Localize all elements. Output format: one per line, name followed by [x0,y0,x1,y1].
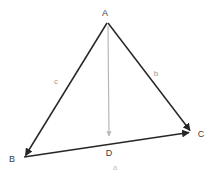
vertex-label-c: C [198,129,205,139]
side-label-a: a [113,163,118,172]
geometry-figure: A B C D c b a [0,0,218,178]
edge-ac-side-b [108,23,190,131]
triangle-diagram-canvas: A B C D c b a [0,0,218,178]
vertex-label-b: B [9,154,15,164]
vertex-label-a: A [102,8,108,18]
edge-ab-side-c [26,23,108,156]
altitude-ad [108,26,109,136]
side-label-c: c [54,77,58,86]
vertex-label-d: D [106,148,113,158]
side-label-b: b [154,69,159,78]
